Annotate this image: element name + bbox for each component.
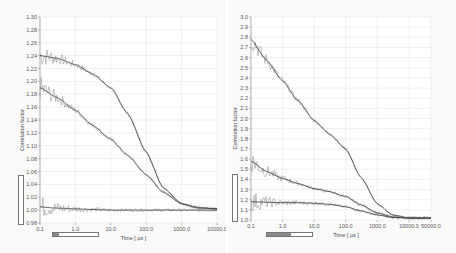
y-tick-label: 1.02 — [26, 194, 37, 200]
y-tick-label: 1.1 — [240, 207, 248, 213]
y-tick-label: 1.10 — [26, 143, 37, 149]
y-tick-label: 1.20 — [26, 78, 37, 84]
y-tick-label: 1.06 — [26, 169, 37, 175]
x-tick-label: 100.0 — [339, 223, 353, 229]
y-tick-label: 1.16 — [26, 104, 37, 110]
left-scrollbar-thumb[interactable] — [53, 233, 59, 236]
y-tick-label: 2.4 — [240, 75, 248, 81]
x-tick-label: 1000.0 — [173, 226, 190, 232]
x-tick-label: 0.1 — [36, 226, 44, 232]
y-tick-label: 1.2 — [240, 197, 248, 203]
y-tick-label: 1.4 — [240, 176, 248, 182]
x-axis-title: Time [ µs ] — [333, 232, 359, 238]
y-tick-label: 2.9 — [240, 24, 248, 30]
y-tick-label: 1.5 — [240, 166, 248, 172]
y-tick-label: 2.0 — [240, 116, 248, 122]
y-tick-label: 1.7 — [240, 146, 248, 152]
right-horizontal-scrollbar[interactable] — [266, 232, 313, 237]
x-tick-label: 100.0 — [139, 226, 153, 232]
y-tick-label: 2.1 — [240, 105, 248, 111]
right-scrollbar-thumb[interactable] — [267, 233, 291, 236]
y-axis-title: Correlation factor — [232, 107, 238, 149]
y-tick-label: 1.18 — [26, 91, 37, 97]
x-tick-label: 50000.0 — [421, 223, 441, 229]
right-vertical-scrollbar[interactable] — [232, 174, 238, 222]
right-chart-panel: 3.02.92.82.72.62.52.42.32.22.12.01.91.81… — [228, 0, 456, 253]
x-tick-label: 10.0 — [309, 223, 320, 229]
left-vertical-scrollbar[interactable] — [18, 175, 24, 225]
x-tick-label: 10000.0 — [399, 223, 419, 229]
left-chart: 1.301.281.261.241.221.201.181.161.141.12… — [0, 0, 226, 253]
x-axis-title: Time [ µs ] — [121, 235, 147, 241]
y-tick-label: 1.26 — [26, 40, 37, 46]
y-tick-label: 1.08 — [26, 156, 37, 162]
x-tick-label: 10.0 — [105, 226, 116, 232]
x-tick-label: 1000.0 — [369, 223, 386, 229]
y-tick-label: 3.0 — [240, 14, 248, 20]
y-axis-title: Correlation factor — [19, 109, 25, 151]
y-tick-label: 1.3 — [240, 187, 248, 193]
y-tick-label: 2.8 — [240, 34, 248, 40]
y-tick-label: 1.8 — [240, 136, 248, 142]
y-tick-label: 1.6 — [240, 156, 248, 162]
y-tick-label: 2.6 — [240, 55, 248, 61]
y-tick-label: 1.9 — [240, 126, 248, 132]
y-tick-label: 2.3 — [240, 85, 248, 91]
y-tick-label: 1.12 — [26, 130, 37, 136]
left-horizontal-scrollbar[interactable] — [52, 232, 99, 237]
x-tick-label: 0.1 — [247, 223, 255, 229]
left-chart-panel: 1.301.281.261.241.221.201.181.161.141.12… — [0, 0, 226, 253]
y-tick-label: 1.14 — [26, 117, 37, 123]
y-tick-label: 2.5 — [240, 65, 248, 71]
y-tick-label: 1.22 — [26, 66, 37, 72]
x-tick-label: 1.0 — [279, 223, 287, 229]
y-tick-label: 1.28 — [26, 27, 37, 33]
y-tick-label: 1.00 — [26, 207, 37, 213]
right-chart: 3.02.92.82.72.62.52.42.32.22.12.01.91.81… — [228, 0, 456, 253]
y-tick-label: 2.2 — [240, 95, 248, 101]
y-tick-label: 2.7 — [240, 44, 248, 50]
y-tick-label: 1.24 — [26, 53, 37, 59]
y-tick-label: 1.30 — [26, 14, 37, 20]
x-tick-label: 10000.0 — [207, 226, 226, 232]
y-tick-label: 1.04 — [26, 181, 37, 187]
